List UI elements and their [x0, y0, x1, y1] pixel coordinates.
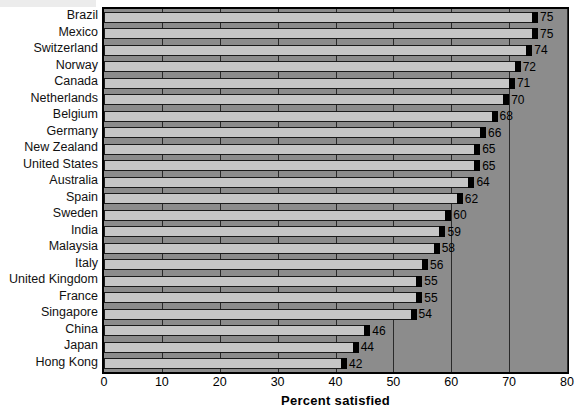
bar-germany[interactable] — [104, 127, 480, 138]
bar-row: 71 — [104, 78, 567, 89]
bar-value-label: 65 — [482, 143, 495, 155]
bar-end-cap — [445, 210, 451, 221]
bar-row: 70 — [104, 94, 567, 105]
bar-value-label: 42 — [349, 358, 362, 370]
bar-singapore[interactable] — [104, 309, 411, 320]
bar-end-cap — [480, 127, 486, 138]
bar-india[interactable] — [104, 226, 439, 237]
bar-row: 46 — [104, 325, 567, 336]
bar-row: 65 — [104, 160, 567, 171]
category-label-china: China — [65, 323, 98, 336]
bar-end-cap — [474, 160, 480, 171]
category-label-france: France — [59, 290, 98, 303]
bar-netherlands[interactable] — [104, 94, 503, 105]
bar-end-cap — [474, 144, 480, 155]
category-label-belgium: Belgium — [53, 108, 98, 121]
page-edge-band — [0, 0, 96, 7]
bar-row: 59 — [104, 226, 567, 237]
gridline-x-80 — [567, 9, 568, 372]
bar-row: 54 — [104, 309, 567, 320]
bar-malaysia[interactable] — [104, 243, 434, 254]
bar-end-cap — [492, 111, 498, 122]
bar-value-label: 55 — [424, 275, 437, 287]
category-label-sweden: Sweden — [53, 207, 98, 220]
x-tick-label-30: 30 — [271, 376, 285, 389]
category-label-brazil: Brazil — [67, 9, 98, 22]
bar-row: 75 — [104, 28, 567, 39]
category-label-india: India — [71, 224, 98, 237]
bar-end-cap — [364, 325, 370, 336]
bar-row: 66 — [104, 127, 567, 138]
bar-value-label: 44 — [361, 341, 374, 353]
bar-china[interactable] — [104, 325, 364, 336]
category-label-canada: Canada — [54, 75, 98, 88]
category-label-singapore: Singapore — [41, 306, 98, 319]
x-tick-label-0: 0 — [101, 376, 108, 389]
bar-canada[interactable] — [104, 78, 509, 89]
bar-sweden[interactable] — [104, 210, 445, 221]
bar-united-states[interactable] — [104, 160, 474, 171]
bar-row: 60 — [104, 210, 567, 221]
bar-row: 58 — [104, 243, 567, 254]
bar-end-cap — [468, 177, 474, 188]
bar-row: 65 — [104, 144, 567, 155]
bar-value-label: 64 — [476, 176, 489, 188]
bar-value-label: 71 — [517, 77, 530, 89]
bar-end-cap — [411, 309, 417, 320]
category-label-malaysia: Malaysia — [49, 240, 98, 253]
category-label-hong-kong: Hong Kong — [35, 356, 98, 369]
chart-page: BrazilMexicoSwitzerlandNorwayCanadaNethe… — [0, 0, 585, 411]
bar-row: 42 — [104, 358, 567, 369]
bar-end-cap — [341, 358, 347, 369]
bar-row: 72 — [104, 61, 567, 72]
bar-row: 44 — [104, 342, 567, 353]
bar-row: 68 — [104, 111, 567, 122]
category-label-netherlands: Netherlands — [31, 92, 98, 105]
bar-united-kingdom[interactable] — [104, 276, 416, 287]
bar-end-cap — [434, 243, 440, 254]
bar-value-label: 65 — [482, 160, 495, 172]
bar-end-cap — [526, 45, 532, 56]
bar-value-label: 74 — [534, 44, 547, 56]
bar-new-zealand[interactable] — [104, 144, 474, 155]
bar-belgium[interactable] — [104, 111, 492, 122]
x-axis-tick-labels: 01020304050607080 — [102, 376, 569, 394]
bar-australia[interactable] — [104, 177, 468, 188]
bar-end-cap — [353, 342, 359, 353]
bar-value-label: 58 — [442, 242, 455, 254]
x-tick-label-50: 50 — [386, 376, 400, 389]
bar-france[interactable] — [104, 292, 416, 303]
bar-end-cap — [416, 276, 422, 287]
category-label-germany: Germany — [47, 125, 98, 138]
bar-row: 64 — [104, 177, 567, 188]
x-tick-label-10: 10 — [155, 376, 169, 389]
bar-value-label: 62 — [465, 193, 478, 205]
category-label-norway: Norway — [56, 59, 98, 72]
category-axis-labels: BrazilMexicoSwitzerlandNorwayCanadaNethe… — [0, 7, 98, 374]
bar-brazil[interactable] — [104, 12, 532, 23]
bar-italy[interactable] — [104, 259, 422, 270]
bar-mexico[interactable] — [104, 28, 532, 39]
category-label-united-kingdom: United Kingdom — [9, 273, 98, 286]
bar-row: 56 — [104, 259, 567, 270]
category-label-switzerland: Switzerland — [33, 42, 98, 55]
bar-value-label: 68 — [500, 110, 513, 122]
bar-norway[interactable] — [104, 61, 515, 72]
bar-value-label: 60 — [453, 209, 466, 221]
bar-value-label: 66 — [488, 127, 501, 139]
x-tick-label-20: 20 — [213, 376, 227, 389]
bar-end-cap — [422, 259, 428, 270]
bar-end-cap — [509, 78, 515, 89]
bar-japan[interactable] — [104, 342, 353, 353]
bar-switzerland[interactable] — [104, 45, 526, 56]
x-tick-label-70: 70 — [502, 376, 516, 389]
x-axis-title: Percent satisfied — [102, 393, 569, 408]
bar-value-label: 55 — [424, 292, 437, 304]
x-tick-label-80: 80 — [560, 376, 574, 389]
bar-end-cap — [515, 61, 521, 72]
bar-row: 55 — [104, 276, 567, 287]
bar-hong-kong[interactable] — [104, 358, 341, 369]
x-tick-label-60: 60 — [444, 376, 458, 389]
category-label-australia: Australia — [49, 174, 98, 187]
bar-spain[interactable] — [104, 193, 457, 204]
